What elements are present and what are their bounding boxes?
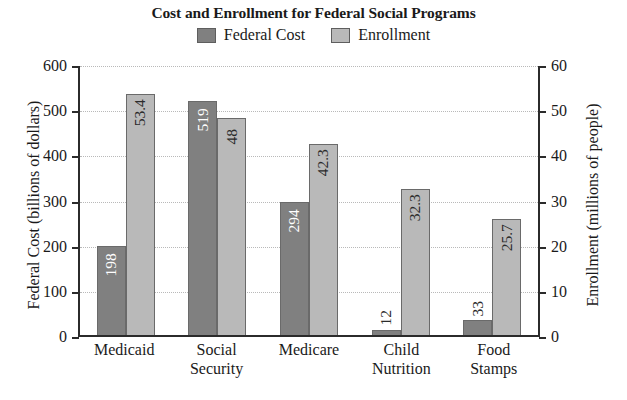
y-axis-left-tick-label: 200 (43, 239, 67, 255)
chart-legend: Federal Cost Enrollment (0, 26, 627, 44)
bar-enroll[interactable]: 42.3 (309, 144, 338, 335)
y-axis-right-tick-label: 40 (551, 148, 567, 164)
bar-groups: 19853.45194829442.31232.33325.7 (80, 66, 538, 335)
x-axis-category-labels: MedicaidSocialSecurityMedicareChildNutri… (78, 341, 540, 378)
plot-inner: 0100200300400500600 0102030405060 19853.… (80, 66, 538, 335)
y-axis-right-tick (539, 292, 546, 294)
bar-value-label: 25.7 (499, 224, 515, 251)
y-axis-right-tick (539, 337, 546, 339)
bar-value-label: 32.3 (407, 194, 423, 221)
legend-entry-enrollment: Enrollment (331, 26, 430, 44)
y-axis-right-tick-label: 10 (551, 284, 567, 300)
y-axis-right-tick (539, 66, 546, 68)
x-axis-category-label: Medicare (263, 341, 355, 360)
y-axis-right-title: Enrollment (millions of people) (584, 67, 602, 343)
x-axis-category-label: FoodStamps (448, 341, 540, 378)
y-axis-right-tick (539, 111, 546, 113)
y-axis-left-tick-label: 400 (43, 148, 67, 164)
y-axis-left-tick (72, 337, 79, 339)
bar-cost[interactable]: 33 (463, 320, 492, 335)
x-axis-category-label: ChildNutrition (355, 341, 447, 378)
y-axis-left-tick-label: 0 (59, 329, 67, 345)
y-axis-left-tick (72, 202, 79, 204)
bar-value-label: 48 (224, 129, 240, 145)
plot-area: 0100200300400500600 0102030405060 19853.… (78, 66, 540, 337)
bar-group: 1232.3 (372, 66, 430, 335)
y-axis-right-tick-label: 50 (551, 103, 567, 119)
bar-cost[interactable]: 198 (97, 246, 126, 335)
x-axis-category-label: Medicaid (78, 341, 170, 360)
bar-group: 29442.3 (280, 66, 338, 335)
y-axis-right-tick-label: 60 (551, 58, 567, 74)
y-axis-left-title: Federal Cost (billions of dollars) (25, 67, 43, 343)
y-axis-right-tick-label: 0 (551, 329, 559, 345)
legend-swatch-enrollment (331, 28, 350, 43)
y-axis-left-tick (72, 66, 79, 68)
y-axis-left-tick (72, 247, 79, 249)
bar-enroll[interactable]: 53.4 (126, 94, 155, 335)
legend-entry-federal-cost: Federal Cost (197, 26, 305, 44)
y-axis-right-tick-label: 20 (551, 239, 567, 255)
legend-label-enrollment: Enrollment (358, 26, 430, 44)
legend-label-federal-cost: Federal Cost (224, 26, 305, 44)
bar-value-label: 42.3 (316, 149, 332, 176)
bar-value-label: 12 (378, 310, 394, 326)
bar-value-label: 294 (287, 209, 303, 232)
y-axis-left-tick (72, 292, 79, 294)
bar-enroll[interactable]: 32.3 (401, 189, 430, 335)
bar-group: 3325.7 (463, 66, 521, 335)
bar-enroll[interactable]: 25.7 (492, 219, 521, 335)
y-axis-left-tick-label: 300 (43, 194, 67, 210)
y-axis-left-tick (72, 156, 79, 158)
bar-value-label: 33 (470, 301, 486, 317)
bar-value-label: 53.4 (133, 99, 149, 126)
y-axis-left-tick-label: 100 (43, 284, 67, 300)
bar-cost[interactable]: 12 (372, 330, 401, 335)
y-axis-left-tick-label: 600 (43, 58, 67, 74)
y-axis-left-tick-label: 500 (43, 103, 67, 119)
legend-swatch-federal-cost (197, 28, 216, 43)
bar-cost[interactable]: 294 (280, 202, 309, 335)
bar-group: 19853.4 (97, 66, 155, 335)
bar-value-label: 519 (195, 108, 211, 131)
bar-group: 51948 (188, 66, 246, 335)
y-axis-left-tick (72, 111, 79, 113)
y-axis-right-tick-label: 30 (551, 194, 567, 210)
chart-title: Cost and Enrollment for Federal Social P… (0, 4, 627, 22)
y-axis-right-tick (539, 202, 546, 204)
y-axis-right-tick (539, 247, 546, 249)
bar-value-label: 198 (104, 253, 120, 276)
y-axis-right-tick (539, 156, 546, 158)
x-axis-category-label: SocialSecurity (171, 341, 263, 378)
bar-cost[interactable]: 519 (188, 101, 217, 335)
bar-enroll[interactable]: 48 (217, 118, 246, 335)
